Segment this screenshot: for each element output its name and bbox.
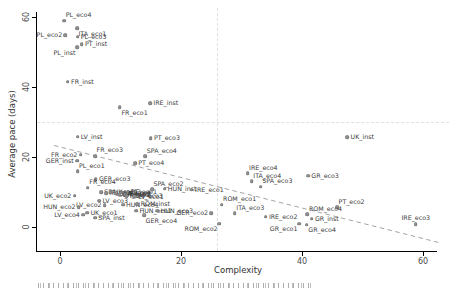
point-label: IRE_eco3	[401, 215, 430, 221]
data-point	[75, 46, 79, 50]
point-label: SPA_eco4	[147, 148, 177, 154]
point-label: UK_eco2	[44, 193, 71, 199]
data-point	[163, 187, 167, 191]
data-point	[144, 155, 148, 159]
data-point	[66, 80, 70, 84]
data-point	[77, 205, 81, 209]
point-label: GR_eco3	[311, 172, 339, 178]
point-label: GR_eco4	[308, 227, 336, 233]
point-label: FR_eco1	[121, 110, 147, 116]
point-label: ITA_eco3	[236, 205, 264, 211]
point-label: HUN_eco2	[43, 204, 75, 210]
caption-fragment	[38, 283, 313, 288]
data-point	[150, 187, 154, 191]
point-label: IRE_eco1	[195, 187, 224, 193]
data-point	[133, 195, 137, 199]
point-label: LV_eco4	[54, 212, 79, 218]
data-point	[264, 215, 268, 219]
data-point	[80, 42, 84, 46]
data-point	[217, 222, 221, 226]
point-label: LV_inst	[81, 134, 103, 140]
data-point	[310, 217, 314, 221]
point-label: GER_eco2	[176, 210, 208, 216]
data-point	[79, 153, 83, 157]
data-point	[93, 216, 97, 220]
x-tick-label: 0	[57, 257, 62, 266]
data-point	[86, 186, 90, 190]
point-label: LV_eco1	[138, 194, 163, 200]
x-tick-mark	[423, 252, 424, 256]
data-point	[121, 203, 125, 207]
x-tick-mark	[60, 252, 61, 256]
data-point	[109, 191, 113, 195]
data-point	[134, 209, 138, 213]
data-point	[104, 192, 108, 196]
data-point	[93, 154, 97, 158]
data-point	[148, 101, 152, 105]
y-tick-label: 0	[22, 224, 31, 229]
y-tick-mark	[32, 227, 36, 228]
trend-line-layer	[0, 0, 450, 288]
point-label: PT_eco2	[339, 199, 365, 205]
data-point	[250, 179, 254, 183]
point-label: IRE_eco2	[269, 214, 298, 220]
point-label: ROM_eco2	[185, 226, 218, 232]
data-point	[103, 204, 107, 208]
data-point	[346, 136, 350, 140]
x-tick-mark	[181, 252, 182, 256]
data-point	[156, 209, 160, 213]
data-point	[133, 162, 137, 166]
data-point	[76, 135, 80, 139]
point-label: SPA_inst	[98, 215, 124, 221]
data-point	[64, 33, 68, 37]
point-label: PT_inst	[85, 41, 107, 47]
point-label: FR_eco4	[89, 179, 115, 185]
data-point	[220, 203, 224, 207]
point-label: UK_inst	[351, 134, 374, 140]
data-point	[73, 194, 77, 198]
point-label: GR_inst	[315, 215, 339, 221]
y-tick-mark	[32, 87, 36, 88]
x-axis-title: Complexity	[214, 265, 262, 275]
y-tick-mark	[32, 157, 36, 158]
y-axis-title: Average pace (days)	[7, 90, 17, 178]
point-label: SPA_eco3	[262, 178, 292, 184]
data-point	[85, 211, 89, 215]
data-point	[76, 169, 80, 173]
data-point	[414, 222, 418, 226]
data-point	[136, 202, 140, 206]
point-label: IRE_inst	[153, 100, 178, 106]
data-point	[62, 19, 66, 23]
data-point	[81, 213, 85, 217]
point-label: GER_eco4	[146, 218, 178, 224]
data-point	[246, 172, 250, 176]
y-tick-label: 20	[22, 152, 31, 162]
point-label: PL_eco2	[37, 32, 63, 38]
data-point	[76, 35, 80, 39]
data-point	[209, 211, 213, 215]
y-tick-label: 60	[22, 12, 31, 22]
data-point	[233, 212, 237, 216]
data-point	[190, 188, 194, 192]
scatter-plot-figure: 02040600204060 PL_eco4ITA_eco1PL_eco2PL_…	[0, 0, 450, 288]
data-point	[306, 174, 310, 178]
point-label: IRE_eco4	[249, 165, 278, 171]
data-point	[149, 136, 153, 140]
y-tick-label: 40	[22, 82, 31, 92]
point-label: PT_eco3	[154, 135, 180, 141]
point-label: PT_eco4	[138, 160, 164, 166]
point-label: PL_inst	[53, 50, 75, 56]
data-point	[259, 185, 263, 189]
point-label: FR_eco3	[97, 147, 123, 153]
point-label: FR_inst	[71, 79, 94, 85]
data-point	[306, 212, 310, 216]
x-tick-mark	[302, 252, 303, 256]
y-tick-mark	[32, 17, 36, 18]
point-label: GR_eco1	[270, 226, 298, 232]
data-point	[99, 191, 103, 195]
point-label: PL_eco4	[66, 12, 92, 18]
point-label: ROM_eco1	[223, 196, 256, 202]
x-tick-label: 60	[418, 257, 428, 266]
x-tick-label: 20	[176, 257, 186, 266]
x-tick-label: 40	[297, 257, 307, 266]
